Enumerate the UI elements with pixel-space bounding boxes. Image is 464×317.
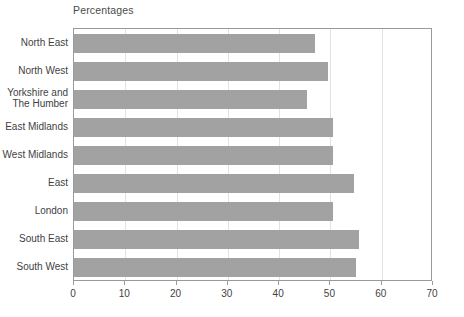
x-axis-tick-mark bbox=[278, 281, 279, 285]
y-axis-label-line: London bbox=[35, 205, 68, 216]
bar-row bbox=[74, 202, 433, 221]
bar bbox=[74, 90, 307, 109]
x-axis-tick-mark bbox=[176, 281, 177, 285]
x-axis-tick-label: 10 bbox=[119, 288, 130, 299]
bar-row bbox=[74, 118, 433, 137]
y-axis-label: South East bbox=[19, 233, 68, 244]
plot-area bbox=[73, 28, 432, 281]
y-axis-label-line: East Midlands bbox=[5, 121, 68, 132]
y-axis-label-line: East bbox=[48, 177, 68, 188]
y-axis-label-line: North East bbox=[21, 37, 68, 48]
y-axis-label: Yorkshire andThe Humber bbox=[7, 87, 68, 109]
y-axis-label: North East bbox=[21, 37, 68, 48]
bars-container bbox=[74, 29, 431, 280]
bar bbox=[74, 202, 333, 221]
bar-row bbox=[74, 230, 433, 249]
x-axis-tick-mark bbox=[227, 281, 228, 285]
x-axis-tick-label: 50 bbox=[324, 288, 335, 299]
bar bbox=[74, 146, 333, 165]
y-axis-label: South West bbox=[16, 261, 68, 272]
x-axis-tick-label: 70 bbox=[426, 288, 437, 299]
chart-title: Percentages bbox=[73, 4, 134, 16]
x-axis-tick-label: 40 bbox=[273, 288, 284, 299]
x-axis-tick-mark bbox=[124, 281, 125, 285]
y-axis-label-line: West Midlands bbox=[3, 149, 68, 160]
x-axis-tick-mark bbox=[329, 281, 330, 285]
x-axis: 010203040506070 bbox=[73, 281, 432, 317]
x-axis-tick-mark bbox=[73, 281, 74, 285]
bar-chart: Percentages North EastNorth WestYorkshir… bbox=[0, 0, 464, 317]
x-axis-tick-label: 0 bbox=[70, 288, 76, 299]
y-axis-category-labels: North EastNorth WestYorkshire andThe Hum… bbox=[0, 28, 73, 281]
y-axis-label-line: South East bbox=[19, 233, 68, 244]
y-axis-label: London bbox=[35, 205, 68, 216]
y-axis-label: East Midlands bbox=[5, 121, 68, 132]
x-axis-tick-label: 20 bbox=[170, 288, 181, 299]
bar-row bbox=[74, 174, 433, 193]
bar-row bbox=[74, 258, 433, 277]
bar-row bbox=[74, 146, 433, 165]
bar bbox=[74, 34, 315, 53]
y-axis-label: North West bbox=[18, 65, 68, 76]
bar-row bbox=[74, 90, 433, 109]
y-axis-label-line: South West bbox=[16, 261, 68, 272]
x-axis-tick-label: 60 bbox=[375, 288, 386, 299]
y-axis-label-line: The Humber bbox=[7, 98, 68, 109]
y-axis-label-line: North West bbox=[18, 65, 68, 76]
bar bbox=[74, 118, 333, 137]
y-axis-label: East bbox=[48, 177, 68, 188]
bar-row bbox=[74, 62, 433, 81]
bar bbox=[74, 258, 356, 277]
x-axis-tick-label: 30 bbox=[221, 288, 232, 299]
y-axis-label: West Midlands bbox=[3, 149, 68, 160]
bar bbox=[74, 174, 354, 193]
x-axis-tick-mark bbox=[381, 281, 382, 285]
y-axis-label-line: Yorkshire and bbox=[7, 87, 68, 98]
bar bbox=[74, 62, 328, 81]
bar-row bbox=[74, 34, 433, 53]
x-axis-tick-mark bbox=[432, 281, 433, 285]
bar bbox=[74, 230, 359, 249]
